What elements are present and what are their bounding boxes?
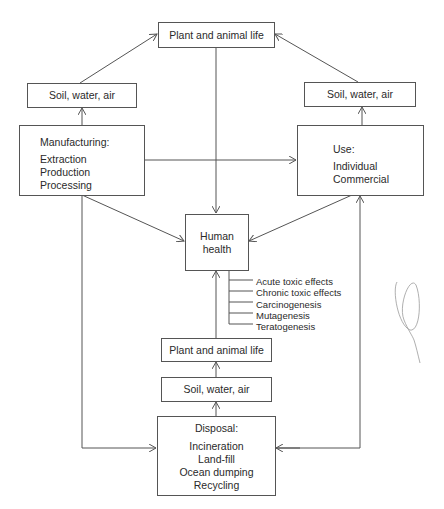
manufacturing-title: Manufacturing: xyxy=(40,136,144,149)
manufacturing-item: Extraction xyxy=(40,153,144,166)
manufacturing-item: Production xyxy=(40,166,144,179)
soil-water-air-left-label: Soil, water, air xyxy=(49,89,115,102)
use-item: Commercial xyxy=(333,173,423,186)
health-effects-list: Acute toxic effects Chronic toxic effect… xyxy=(256,276,341,332)
soil-water-air-left-box: Soil, water, air xyxy=(27,83,137,108)
soil-water-air-bottom-label: Soil, water, air xyxy=(184,383,250,396)
plant-animal-life-top-label: Plant and animal life xyxy=(169,29,264,42)
human-health-label-line: Human xyxy=(200,230,234,243)
plant-animal-life-bottom-label: Plant and animal life xyxy=(169,344,264,357)
use-item: Individual xyxy=(333,160,423,173)
disposal-title: Disposal: xyxy=(158,422,275,435)
manufacturing-box: Manufacturing: Extraction Production Pro… xyxy=(19,125,145,196)
disposal-box: Disposal: Incineration Land-fill Ocean d… xyxy=(157,416,276,496)
handwritten-scribble-mark xyxy=(390,270,430,365)
health-effect-item: Teratogenesis xyxy=(256,321,341,332)
health-effect-item: Mutagenesis xyxy=(256,310,341,321)
disposal-item: Land-fill xyxy=(158,453,275,466)
soil-water-air-right-label: Soil, water, air xyxy=(327,88,393,101)
human-health-box: Human health xyxy=(185,214,249,271)
health-effect-item: Acute toxic effects xyxy=(256,276,341,287)
human-health-label-line: health xyxy=(203,243,232,256)
health-effect-item: Chronic toxic effects xyxy=(256,287,341,298)
plant-animal-life-bottom-box: Plant and animal life xyxy=(161,338,272,362)
manufacturing-item: Processing xyxy=(40,179,144,192)
soil-water-air-bottom-box: Soil, water, air xyxy=(161,377,272,402)
plant-animal-life-top-box: Plant and animal life xyxy=(158,22,275,48)
disposal-item: Incineration xyxy=(158,440,275,453)
health-effect-item: Carcinogenesis xyxy=(256,299,341,310)
use-title: Use: xyxy=(333,143,423,156)
use-box: Use: Individual Commercial xyxy=(297,125,424,196)
disposal-item: Ocean dumping xyxy=(158,466,275,479)
soil-water-air-right-box: Soil, water, air xyxy=(304,82,416,107)
disposal-item: Recycling xyxy=(158,479,275,492)
